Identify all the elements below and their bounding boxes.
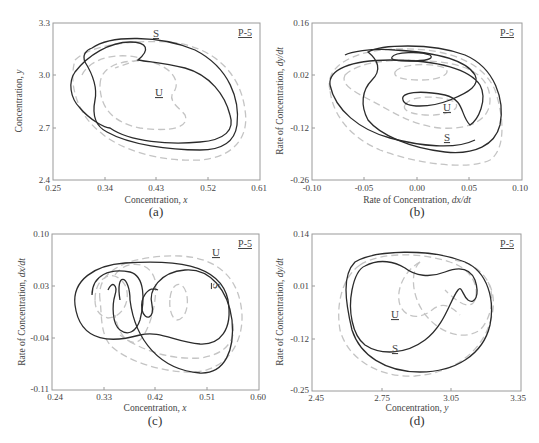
ytick-c-2: -0.04: [30, 333, 49, 343]
tag-c: P-5: [238, 238, 252, 249]
panel-d: 0.14 0.01 -0.12 -0.25 2.45 2.75 3.05 3.3…: [275, 229, 526, 428]
ytick-d-1: 0.01: [293, 281, 309, 291]
label-u-d: U: [391, 308, 399, 320]
label-u-b: U: [443, 101, 451, 113]
tag-b: P-5: [500, 27, 514, 38]
label-s-c: S: [211, 283, 223, 289]
ylabel-c: Rate of Concentration, dx/dt: [17, 258, 27, 366]
xtick-a-4: 0.61: [251, 183, 267, 193]
ytick-b-2: -0.12: [290, 123, 309, 133]
xtick-c-2: 0.42: [147, 392, 163, 402]
curve-u-b: [329, 49, 502, 165]
figure-canvas: 3.3 3.0 2.7 2.4 0.25 0.34 0.43 0.52 0.61…: [0, 0, 539, 443]
xlabel-d: Concentration, y: [386, 403, 450, 413]
xtick-d-1: 2.75: [374, 393, 390, 403]
xtick-d-2: 3.05: [443, 393, 459, 403]
xtick-b-3: 0.05: [461, 183, 477, 193]
label-u-c: U: [212, 246, 220, 258]
xtick-b-4: 0.10: [512, 183, 528, 193]
xtick-c-0: 0.24: [47, 392, 63, 402]
panel-a: 3.3 3.0 2.7 2.4 0.25 0.34 0.43 0.52 0.61…: [14, 18, 267, 219]
ylabel-b: Rate of Concentration, dy/dt: [275, 47, 285, 155]
xtick-d-3: 3.35: [510, 393, 526, 403]
xtick-b-2: 0.00: [409, 183, 425, 193]
ytick-c-1: 0.03: [33, 281, 49, 291]
plot-frame-d: [312, 234, 521, 391]
ytick-d-3: -0.25: [290, 385, 309, 395]
xtick-a-2: 0.43: [148, 183, 164, 193]
xtick-a-3: 0.52: [200, 183, 216, 193]
label-s-a: S: [153, 27, 159, 39]
ytick-d-0: 0.14: [293, 229, 309, 239]
ytick-b-1: 0.02: [293, 70, 309, 80]
plot-frame-a: [53, 23, 260, 180]
ytick-d-2: -0.12: [290, 334, 309, 344]
panel-b: 0.16 0.02 -0.12 -0.26 -0.10 -0.05 0.00 0…: [275, 18, 528, 219]
tag-a: P-5: [238, 27, 252, 38]
xtick-c-1: 0.33: [96, 392, 112, 402]
label-s-d: S: [392, 342, 398, 354]
ytick-c-0: 0.10: [33, 229, 49, 239]
ytick-a-2: 2.7: [39, 123, 51, 133]
ytick-a-0: 3.3: [39, 18, 51, 28]
xtick-b-0: -0.10: [303, 183, 322, 193]
label-u-a: U: [155, 86, 163, 98]
panel-c: 0.10 0.03 -0.04 -0.11 0.24 0.33 0.42 0.5…: [17, 229, 266, 428]
ylabel-a: Concentration, y: [14, 69, 24, 133]
xtick-c-4: 0.60: [250, 392, 266, 402]
xtick-c-3: 0.51: [199, 392, 215, 402]
xtick-a-0: 0.25: [45, 183, 61, 193]
xtick-d-0: 2.45: [308, 393, 324, 403]
xtick-a-1: 0.34: [97, 183, 113, 193]
curve-u-d: [339, 260, 494, 376]
xtick-b-1: -0.05: [355, 183, 374, 193]
ytick-b-0: 0.16: [293, 18, 309, 28]
label-s-b: S: [444, 131, 450, 143]
xlabel-c: Concentration, x: [124, 403, 188, 413]
tag-d: P-5: [500, 238, 514, 249]
caption-c: (c): [148, 413, 162, 428]
ylabel-d: Rate of Concentration, dy/dt: [275, 258, 285, 366]
ytick-a-1: 3.0: [39, 70, 51, 80]
caption-a: (a): [149, 204, 163, 219]
caption-b: (b): [409, 204, 424, 219]
caption-d: (d): [409, 413, 424, 428]
